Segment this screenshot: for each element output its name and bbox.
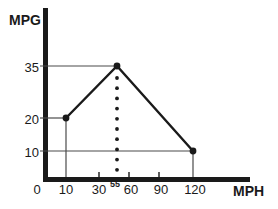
x-tick-label-0: 0: [33, 182, 40, 197]
dot: [115, 117, 119, 121]
trend-line: [66, 66, 193, 151]
x-tick-label-30: 30: [92, 182, 106, 197]
x-axis: [43, 177, 250, 182]
dot: [115, 107, 119, 111]
data-points: [63, 63, 197, 155]
x-tick-label-60: 60: [124, 182, 138, 197]
dotted-guide-55: [115, 76, 119, 172]
dot: [115, 148, 119, 152]
x-tick-label-55: 55: [110, 179, 120, 189]
dot: [115, 137, 119, 141]
dot: [115, 97, 119, 101]
y-tick-label-20: 20: [25, 112, 39, 127]
x-axis-title: MPH: [233, 183, 264, 199]
x-tick-label-90: 90: [154, 182, 168, 197]
data-point-120: [190, 148, 197, 155]
dot: [115, 168, 119, 172]
x-tick-label-120: 120: [184, 182, 206, 197]
axis-ticks: [99, 172, 159, 177]
y-axis-title: MPG: [9, 12, 41, 28]
dot: [115, 76, 119, 80]
data-point-10: [63, 115, 70, 122]
trend-path: [66, 66, 193, 151]
y-tick-label-10: 10: [25, 145, 39, 160]
y-tick-label-35: 35: [25, 60, 39, 75]
mpg-vs-mph-chart: 01030556090120 352010 MPG MPH: [0, 0, 278, 209]
y-tick-labels: 352010: [25, 60, 39, 160]
x-tick-label-10: 10: [59, 182, 73, 197]
dot: [115, 86, 119, 90]
y-axis: [43, 8, 48, 181]
data-point-55: [114, 63, 121, 70]
dot: [115, 158, 119, 162]
dot: [115, 127, 119, 131]
chart-canvas: 01030556090120 352010 MPG MPH: [0, 0, 278, 209]
